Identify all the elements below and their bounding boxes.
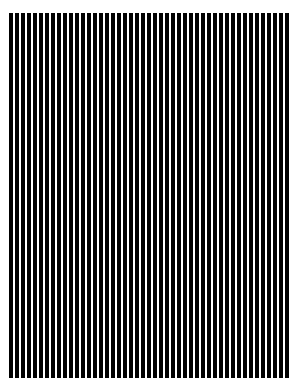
vertical-stripe-grating [9, 13, 291, 378]
stimulus-canvas [0, 0, 295, 392]
